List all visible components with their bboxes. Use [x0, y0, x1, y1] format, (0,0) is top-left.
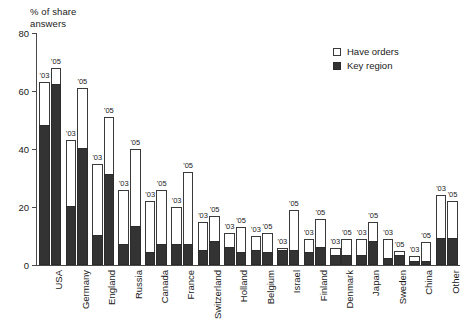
- bar-switzerland-y05[interactable]: [209, 216, 220, 265]
- bar-belgium-y05[interactable]: [262, 233, 273, 265]
- bar-group: '03'05: [63, 33, 89, 265]
- bar-year-label: '05: [368, 211, 378, 220]
- bar-segment-key-region: [183, 244, 194, 265]
- bar-segment-key-region: [51, 84, 62, 265]
- bar-year-label: '05: [263, 222, 273, 231]
- bar-sweden-y05[interactable]: [394, 251, 405, 266]
- bar-year-label: '05: [421, 231, 431, 240]
- bar-finland-y03[interactable]: [304, 239, 315, 265]
- bar-group: '03'05: [301, 33, 327, 265]
- bar-segment-key-region: [145, 252, 156, 265]
- bar-year-label: '03: [225, 222, 235, 231]
- bar-usa-y05[interactable]: [51, 68, 62, 265]
- x-axis-label-germany: Germany: [80, 270, 91, 309]
- bar-year-label: '03: [304, 228, 314, 237]
- bar-segment-key-region: [315, 247, 326, 265]
- bar-year-label: '05: [210, 205, 220, 214]
- bar-russia-y05[interactable]: [130, 149, 141, 265]
- bar-year-label: '05: [448, 190, 458, 199]
- bar-denmark-y03[interactable]: [330, 248, 341, 265]
- bar-segment-key-region: [421, 261, 432, 265]
- y-axis-tick: [32, 265, 37, 266]
- bar-year-label: '03: [145, 190, 155, 199]
- bar-sweden-y03[interactable]: [383, 239, 394, 265]
- bar-denmark-y05[interactable]: [341, 239, 352, 265]
- bar-germany-y05[interactable]: [77, 88, 88, 265]
- bar-other-y05[interactable]: [447, 201, 458, 265]
- bar-year-label: '03: [66, 129, 76, 138]
- bar-segment-key-region: [304, 252, 315, 265]
- bar-segment-key-region: [289, 250, 300, 266]
- bar-japan-y05[interactable]: [368, 222, 379, 266]
- y-axis-tick-label: 40: [18, 144, 29, 155]
- x-axis-label-israel: Israel: [291, 270, 302, 293]
- bar-year-label: '03: [172, 196, 182, 205]
- bar-russia-y03[interactable]: [118, 190, 129, 265]
- bar-japan-y03[interactable]: [356, 239, 367, 265]
- bar-year-label: '03: [330, 237, 340, 246]
- bar-segment-key-region: [409, 261, 420, 265]
- bar-england-y03[interactable]: [92, 164, 103, 266]
- bar-segment-key-region: [224, 247, 235, 265]
- legend-label: Have orders: [347, 46, 399, 57]
- bar-group: '03'05: [222, 33, 248, 265]
- x-axis-label-france: France: [185, 270, 196, 300]
- bar-group: '03'05: [275, 33, 301, 265]
- legend-swatch-open-icon: [333, 48, 341, 56]
- x-axis-label-china: China: [423, 270, 434, 295]
- bar-year-label: '03: [198, 211, 208, 220]
- bar-segment-key-region: [171, 244, 182, 265]
- bar-segment-key-region: [383, 258, 394, 265]
- bar-year-label: '05: [183, 161, 193, 170]
- bar-year-label: '03: [410, 245, 420, 254]
- bar-year-label: '05: [395, 240, 405, 249]
- bar-segment-key-region: [104, 174, 115, 265]
- bar-group: '03'05: [249, 33, 275, 265]
- bar-segment-key-region: [277, 250, 288, 266]
- bar-canada-y03[interactable]: [145, 201, 156, 265]
- x-axis-label-switzerland: Switzerland: [212, 270, 223, 319]
- x-axis-label-japan: Japan: [370, 270, 381, 296]
- bar-year-label: '03: [251, 225, 261, 234]
- y-axis-tick-label: 0: [24, 260, 29, 271]
- bar-usa-y03[interactable]: [39, 82, 50, 265]
- bar-segment-key-region: [77, 148, 88, 265]
- bar-switzerland-y03[interactable]: [198, 222, 209, 266]
- x-axis-label-denmark: Denmark: [344, 270, 355, 309]
- bar-year-label: '03: [119, 179, 129, 188]
- bar-israel-y03[interactable]: [277, 248, 288, 265]
- bar-holland-y03[interactable]: [224, 233, 235, 265]
- x-axis-label-belgium: Belgium: [265, 270, 276, 304]
- legend-item-key-region: Key region: [333, 60, 399, 71]
- bar-segment-key-region: [39, 125, 50, 265]
- bar-china-y05[interactable]: [421, 242, 432, 265]
- y-axis-tick-label: 60: [18, 86, 29, 97]
- bar-segment-key-region: [341, 255, 352, 265]
- bar-canada-y05[interactable]: [156, 190, 167, 265]
- bar-segment-key-region: [436, 238, 447, 265]
- bar-england-y05[interactable]: [104, 117, 115, 265]
- bar-segment-key-region: [368, 241, 379, 265]
- bar-china-y03[interactable]: [409, 256, 420, 265]
- bar-chart: % of share answers 020406080 '03'05'03'0…: [0, 0, 466, 329]
- bar-germany-y03[interactable]: [66, 140, 77, 265]
- bar-year-label: '05: [51, 57, 61, 66]
- bar-finland-y05[interactable]: [315, 219, 326, 265]
- bar-segment-key-region: [251, 250, 262, 266]
- bar-year-label: '03: [40, 71, 50, 80]
- bar-group: '03'05: [434, 33, 460, 265]
- bar-france-y03[interactable]: [171, 207, 182, 265]
- bar-year-label: '03: [92, 153, 102, 162]
- bar-group: '03'05: [196, 33, 222, 265]
- bar-other-y03[interactable]: [436, 195, 447, 265]
- bar-holland-y05[interactable]: [236, 227, 247, 265]
- bar-belgium-y03[interactable]: [251, 236, 262, 265]
- bar-segment-key-region: [356, 255, 367, 265]
- bar-segment-key-region: [209, 241, 220, 265]
- bar-year-label: '03: [357, 228, 367, 237]
- bar-year-label: '03: [278, 237, 288, 246]
- bar-france-y05[interactable]: [183, 172, 194, 265]
- bar-israel-y05[interactable]: [289, 210, 300, 265]
- bar-segment-key-region: [330, 255, 341, 265]
- bar-segment-key-region: [66, 206, 77, 265]
